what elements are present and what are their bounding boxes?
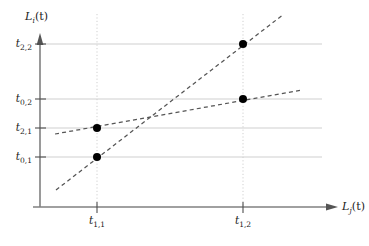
y-axis-arrowhead <box>37 33 44 45</box>
data-point <box>239 40 247 48</box>
series-steep-dashed-line <box>56 14 284 190</box>
plot-canvas <box>0 0 369 246</box>
xtick-label-t12: t1,2 <box>218 214 268 229</box>
data-point <box>239 95 247 103</box>
y-axis <box>37 33 44 207</box>
x-axis <box>33 204 338 211</box>
x-axis-title-arg: (t) <box>352 200 365 213</box>
regression-lines <box>55 14 302 190</box>
xtick-label-t11: t1,1 <box>72 214 122 229</box>
data-point <box>93 153 101 161</box>
ytick-label-t22: t2,2 <box>0 37 32 52</box>
y-axis-title: Li(t) <box>25 10 48 25</box>
xtick-label-sub: 1,2 <box>239 220 251 229</box>
data-points <box>93 40 247 161</box>
xtick-label-sub: 1,1 <box>93 220 105 229</box>
ytick-label-t21: t2,1 <box>0 121 32 136</box>
ytick-label-sub: 2,2 <box>20 43 32 52</box>
ytick-label-t01: t0,1 <box>0 150 32 165</box>
series-shallow-dashed-line <box>55 90 302 134</box>
ytick-label-sub: 0,2 <box>20 98 32 107</box>
x-axis-arrowhead <box>326 204 338 211</box>
y-axis-title-arg: (t) <box>35 10 48 23</box>
ytick-label-sub: 0,1 <box>20 156 32 165</box>
ytick-label-sub: 2,1 <box>20 127 32 136</box>
vertical-gridlines <box>97 14 243 207</box>
data-point <box>93 124 101 132</box>
x-axis-title: Lj(t) <box>342 200 365 215</box>
figure-container: Li(t) Lj(t) t2,2 t0,2 t2,1 t0,1 t1,1 t1,… <box>0 0 369 246</box>
horizontal-gridlines <box>40 44 322 157</box>
ytick-label-t02: t0,2 <box>0 92 32 107</box>
